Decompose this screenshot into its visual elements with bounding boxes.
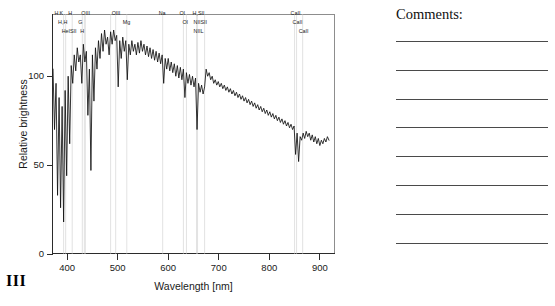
comment-line[interactable] <box>396 185 548 186</box>
x-tick-mark <box>269 254 270 260</box>
spectral-line-label: CaII <box>291 10 301 16</box>
y-axis-label: Relative brightness <box>17 39 29 209</box>
x-tick-label: 900 <box>303 263 337 273</box>
comments-title: Comments: <box>396 6 463 23</box>
y-tick-mark <box>47 76 53 77</box>
y-tick-mark <box>47 165 53 166</box>
comment-line[interactable] <box>396 156 548 157</box>
x-axis-label: Wavelength [nm] <box>52 280 335 292</box>
spectral-line-label: CaII <box>293 19 303 25</box>
spectral-line-label: G <box>78 19 82 25</box>
spectral-line-label: H <box>68 10 72 16</box>
comment-line[interactable] <box>396 41 548 42</box>
spectral-line-label: OIII <box>81 10 90 16</box>
spectral-line-label: NIIL <box>194 28 204 34</box>
x-tick-mark <box>218 254 219 260</box>
x-tick-mark <box>117 254 118 260</box>
x-tick-label: 700 <box>202 263 236 273</box>
spectral-line-label: Mg <box>123 19 131 25</box>
y-tick-label: 0 <box>18 249 44 258</box>
y-tick-mark <box>47 254 53 255</box>
x-tick-label: 800 <box>252 263 286 273</box>
comment-line[interactable] <box>396 127 548 128</box>
spectral-line-label: CaII <box>299 28 309 34</box>
spectral-line-label: H,H <box>58 19 67 25</box>
comment-line[interactable] <box>396 214 548 215</box>
x-tick-label: 600 <box>151 263 185 273</box>
spectrum-chart: 0 50 100 400 500 600 700 800 900 Relativ… <box>0 0 390 306</box>
spectral-line-labels: HKHOIIIOIIINaOIH,SIICaIIH,HGMgOINIISIICa… <box>52 10 335 52</box>
spectral-line-label: OI <box>182 19 188 25</box>
x-tick-mark <box>168 254 169 260</box>
comments-panel: Comments: <box>396 0 555 306</box>
spectral-line-label: H <box>55 10 59 16</box>
spectral-line-label: H <box>80 28 84 34</box>
spectrum-figure-page: 0 50 100 400 500 600 700 800 900 Relativ… <box>0 0 555 306</box>
spectral-line-label: OI <box>179 10 185 16</box>
comment-line[interactable] <box>396 99 548 100</box>
comment-line[interactable] <box>396 243 548 244</box>
spectral-line-label: H,SII <box>193 10 205 16</box>
x-tick-label: 400 <box>50 263 84 273</box>
spectral-line-label: OIII <box>112 10 121 16</box>
spectral-line-label: Na <box>159 10 166 16</box>
x-tick-label: 500 <box>101 263 135 273</box>
spectral-line-label: HeISII <box>62 28 77 34</box>
figure-number: III <box>6 272 26 290</box>
spectrum-curve <box>53 30 329 222</box>
x-tick-mark <box>67 254 68 260</box>
spectral-line-label: K <box>60 10 64 16</box>
comment-line[interactable] <box>396 70 548 71</box>
x-tick-mark <box>319 254 320 260</box>
spectral-line-label: NIISII <box>194 19 207 25</box>
